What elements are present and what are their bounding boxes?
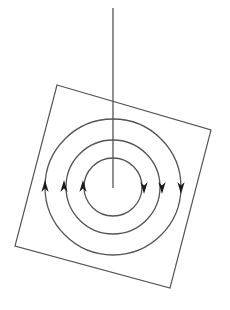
diagram-background — [0, 0, 230, 310]
physics-diagram-figure — [0, 0, 230, 310]
diagram-canvas — [0, 0, 230, 310]
